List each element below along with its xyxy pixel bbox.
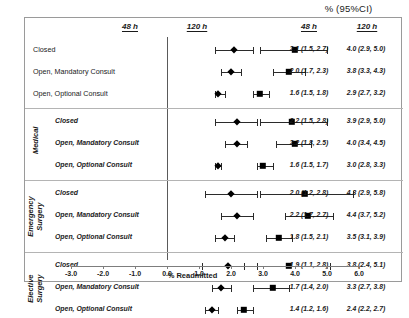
- forest-row: Open, Mandatory Consult2.0 (1.7, 2.3)3.8…: [25, 61, 403, 83]
- value-120h: 4.3 (2.9, 5.8): [339, 189, 393, 196]
- forest-row: Open, Optional Consult1.4 (1.2, 1.6)2.4 …: [25, 299, 403, 318]
- value-120h: 3.9 (2.9, 5.0): [339, 117, 393, 124]
- value-120h: 3.5 (3.1, 3.9): [339, 233, 393, 240]
- confidence-interval-cap: [215, 235, 216, 242]
- point-marker-48h: [234, 118, 241, 125]
- confidence-interval-cap: [247, 141, 248, 148]
- point-marker-48h: [221, 234, 228, 241]
- point-marker-48h: [234, 140, 241, 147]
- row-plot: [25, 155, 280, 177]
- confidence-interval-cap: [260, 119, 261, 126]
- x-tick: [359, 266, 360, 269]
- x-tick: [71, 266, 72, 269]
- confidence-interval-cap: [257, 191, 258, 198]
- value-120h: 4.4 (3.7, 5.2): [339, 211, 393, 218]
- confidence-interval-cap: [253, 213, 254, 220]
- x-tick: [263, 266, 264, 269]
- x-tick: [295, 266, 296, 269]
- confidence-interval-cap: [273, 163, 274, 170]
- x-tick: [135, 266, 136, 269]
- point-marker-48h: [208, 306, 215, 313]
- confidence-interval-cap: [253, 285, 254, 292]
- point-marker-120h: [269, 285, 275, 291]
- x-axis-line: [71, 266, 359, 267]
- confidence-interval-cap: [234, 235, 235, 242]
- forest-row: Open, Mandatory Consult2.2 (1.7, 2.7)4.4…: [25, 205, 403, 227]
- point-marker-48h: [227, 68, 234, 75]
- value-48h: 1.6 (1.5, 1.7): [283, 161, 335, 168]
- x-tick: [199, 266, 200, 269]
- confidence-interval-cap: [257, 119, 258, 126]
- value-48h: 2.2 (1.8, 2.5): [283, 139, 335, 146]
- confidence-interval-cap: [231, 285, 232, 292]
- forest-row: Open, Optional Consult1.8 (1.5, 2.1)3.5 …: [25, 227, 403, 249]
- confidence-interval-cap: [266, 235, 267, 242]
- value-48h: 2.2 (1.5, 2.8): [283, 117, 335, 124]
- confidence-interval-cap: [212, 285, 213, 292]
- plot-frame: 48 h 120 h 48 h 120 h Closed2.1 (1.5, 2.…: [24, 17, 402, 282]
- group-separator: [25, 108, 403, 109]
- value-48h: 2.0 (1.2, 2.8): [283, 189, 335, 196]
- group-separator: [25, 180, 403, 181]
- confidence-interval-cap: [241, 69, 242, 76]
- forest-row: Open, Optional Consult1.6 (1.5, 1.8)2.9 …: [25, 83, 403, 105]
- forest-row: Open, Optional Consult1.6 (1.5, 1.7)3.0 …: [25, 155, 403, 177]
- confidence-interval-cap: [205, 307, 206, 314]
- confidence-interval-cap: [215, 119, 216, 126]
- value-48h: 1.6 (1.5, 1.8): [283, 89, 335, 96]
- row-plot: [25, 205, 280, 227]
- confidence-interval-cap: [221, 213, 222, 220]
- value-120h: 3.0 (2.8, 3.3): [339, 161, 393, 168]
- value-48h: 1.7 (1.4, 2.0): [283, 283, 335, 290]
- point-marker-120h: [260, 163, 266, 169]
- plot-header-120h: 120 h: [175, 22, 219, 31]
- forest-row: Closed2.1 (1.5, 2.7)4.0 (2.9, 5.0): [25, 39, 403, 61]
- value-120h: 3.3 (2.7, 3.8): [339, 283, 393, 290]
- value-120h: 4.0 (2.9, 5.0): [339, 45, 393, 52]
- confidence-interval-cap: [260, 47, 261, 54]
- group-separator: [25, 252, 403, 253]
- point-marker-120h: [241, 307, 247, 313]
- value-120h: 3.8 (3.3, 4.3): [339, 67, 393, 74]
- confidence-interval-cap: [269, 91, 270, 98]
- confidence-interval-cap: [221, 69, 222, 76]
- value-48h: 1.8 (1.5, 2.1): [283, 233, 335, 240]
- row-plot: [25, 183, 280, 205]
- confidence-interval-cap: [257, 163, 258, 170]
- point-marker-48h: [231, 46, 238, 53]
- row-plot: [25, 61, 280, 83]
- value-120h: 2.9 (2.7, 3.2): [339, 89, 393, 96]
- point-marker-48h: [227, 190, 234, 197]
- confidence-interval-cap: [260, 191, 261, 198]
- row-plot: [25, 133, 280, 155]
- point-marker-48h: [218, 284, 225, 291]
- x-axis-title: % Readmitted: [25, 271, 360, 280]
- value-48h: 2.1 (1.5, 2.7): [283, 45, 335, 52]
- group-label: Medical: [32, 113, 41, 167]
- point-marker-120h: [257, 91, 263, 97]
- group-label: Emergency Surgery: [27, 190, 44, 244]
- row-plot: [25, 39, 280, 61]
- point-marker-48h: [234, 212, 241, 219]
- column-header-row: 48 h 120 h 48 h 120 h: [25, 18, 401, 38]
- value-120h: 2.4 (2.2, 2.7): [339, 305, 393, 312]
- confidence-interval-cap: [237, 307, 238, 314]
- value-120h: 4.0 (3.4, 4.5): [339, 139, 393, 146]
- forest-row: Open, Mandatory Consult2.2 (1.8, 2.5)4.0…: [25, 133, 403, 155]
- row-plot: [25, 83, 280, 105]
- row-plot: [25, 111, 280, 133]
- row-plot: [25, 227, 280, 249]
- confidence-interval-cap: [253, 307, 254, 314]
- confidence-interval-cap: [225, 141, 226, 148]
- plot-header-48h: 48 h: [109, 22, 151, 31]
- confidence-interval-cap: [215, 47, 216, 54]
- x-tick: [103, 266, 104, 269]
- value-48h: 2.2 (1.7, 2.7): [283, 211, 335, 218]
- value-header-120h: 120 h: [345, 22, 389, 31]
- confidence-interval-cap: [225, 91, 226, 98]
- x-tick: [327, 266, 328, 269]
- units-header: % (95%CI): [296, 3, 401, 14]
- value-48h: 2.0 (1.7, 2.3): [283, 67, 335, 74]
- confidence-interval-cap: [218, 307, 219, 314]
